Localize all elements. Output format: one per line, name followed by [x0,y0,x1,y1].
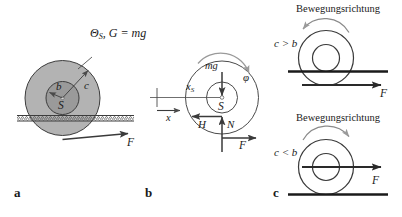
weight-expression: , G = mg [103,26,146,40]
panel-a-graphics [17,57,134,140]
panel-c-case-2-force-label: F [372,175,379,187]
panel-a-inner-radius-label: b [56,81,62,92]
panel-c-case-1-condition: c > b [274,38,297,49]
panel-b-normal-label: N [227,119,234,130]
panel-b-force-label: F [239,140,246,152]
panel-c-case-2-condition: c < b [274,147,297,158]
x-subscript: S [191,86,195,94]
panel-letter-b: b [145,186,152,199]
figure-canvas: ΘS, G = mg b c S F a mg φ xS S H N F x b… [0,0,402,217]
panel-b-center-label: S [218,101,224,113]
panel-c-case-1-caption: Bewegungsrichtung [296,4,380,15]
panel-a-outer-radius-label: c [84,80,89,91]
theta-symbol: Θ [90,26,99,40]
panel-b-weight-label: mg [205,61,218,72]
panel-b-friction-label: H [198,119,206,130]
panel-letter-a: a [14,186,21,199]
panel-b-axis-label: x [166,113,171,124]
panel-c-case-2-caption: Bewegungsrichtung [296,113,380,124]
panel-a-center-label: S [58,100,64,112]
panel-a-force-label: F [127,137,134,149]
panel-b-rotation-label: φ [243,72,249,83]
panel-c-case-1-force-label: F [380,88,387,100]
panel-b-center-coordinate-label: xS [186,82,194,94]
panel-a-inertia-weight-label: ΘS, G = mg [90,27,146,41]
panel-letter-c: c [273,186,279,199]
panel-c-case-1-graphics [288,19,388,86]
